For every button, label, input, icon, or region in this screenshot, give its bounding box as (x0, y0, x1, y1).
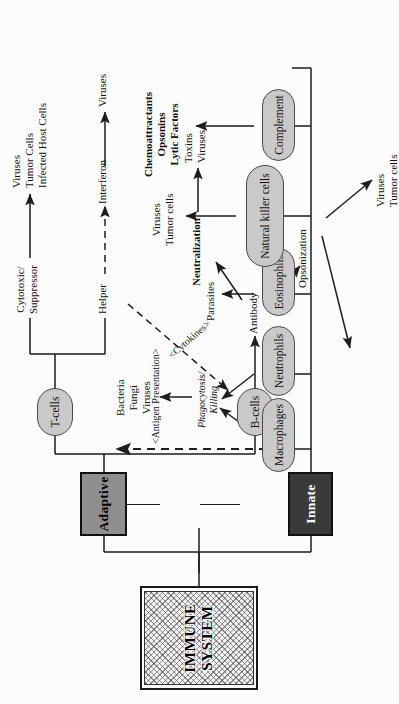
parasites-label: Parasites (204, 282, 217, 321)
immune-system-box[interactable]: IMMUNE SYSTEM (140, 586, 258, 690)
natural-killer-cells-pill[interactable]: Natural killer cells (246, 165, 284, 267)
arrow-antibody-neutralization (216, 262, 242, 300)
immune-system-box-inner: IMMUNE SYSTEM (144, 591, 254, 685)
antigen-presentation-label: <Antigen Presentation> (150, 349, 162, 444)
cytokines-label: <Cytokines> (166, 318, 213, 361)
complement-label: Complement (273, 95, 285, 154)
innate-label: Innate (303, 484, 319, 523)
complement-pill[interactable]: Complement (262, 89, 295, 161)
interferon-label: Interferon (96, 160, 109, 204)
macrophages-label: Macrophages (273, 404, 285, 466)
bacteria-fungi-viruses-label: Bacteria Fungi Viruses (114, 379, 153, 416)
bcells-label: B-cells (249, 396, 261, 429)
arrow-opsonization-vt (326, 180, 372, 218)
tcells-pill[interactable]: T-cells (37, 388, 73, 436)
diagram-canvas: IMMUNE SYSTEM Adaptive Innate T-cells B-… (0, 0, 399, 704)
nk-targets-label: Viruses Tumor cells (150, 194, 176, 246)
helper-label: Helper (96, 284, 109, 314)
antibody-label: Antibody (247, 292, 260, 334)
cytotoxic-suppressor-label: Cytotoxic/ Suppressor (14, 265, 40, 314)
connector-root-to-innate (200, 504, 240, 505)
adaptive-label: Adaptive (96, 477, 112, 532)
innate-box[interactable]: Innate (288, 472, 333, 536)
adaptive-box[interactable]: Adaptive (80, 472, 127, 536)
arrow-opsonization-bfv (322, 236, 350, 348)
opsonization-label: Opsonization (296, 229, 309, 288)
neutralization-targets-label: Toxins Viruses (182, 130, 208, 163)
immune-system-label: IMMUNE SYSTEM (182, 592, 216, 684)
neutrophils-pill[interactable]: Neutrophils (262, 326, 295, 396)
neutralization-label: Neutralization (190, 218, 203, 286)
natural-killer-cells-label: Natural killer cells (259, 173, 271, 259)
complement-targets-label: Chemoattractants Opsonins Lytic Factors (142, 92, 181, 177)
opsonization-targets-b-label: Viruses Tumor cells (374, 155, 399, 207)
phagocytosis-killing-label: Phagocytosis/ Killing (196, 372, 220, 428)
neutrophils-label: Neutrophils (273, 334, 285, 388)
cytotoxic-targets-label: Viruses Tumor Cells Infected Host Cells (10, 103, 49, 188)
helper-targets-label: Viruses (96, 74, 109, 107)
tcells-label: T-cells (49, 397, 61, 428)
macrophages-pill[interactable]: Macrophages (262, 398, 295, 472)
immune-system-flowchart: IMMUNE SYSTEM Adaptive Innate T-cells B-… (0, 0, 399, 704)
